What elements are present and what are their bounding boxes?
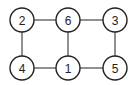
node-5: 5 [103,56,127,80]
node-4: 4 [10,56,34,80]
node-label: 4 [19,62,26,76]
node-label: 1 [65,62,72,76]
graph-diagram: 263415 [0,0,137,85]
node-label: 3 [112,14,119,28]
node-2: 2 [10,8,34,32]
node-1: 1 [56,56,80,80]
node-label: 6 [65,14,72,28]
node-3: 3 [103,8,127,32]
node-6: 6 [56,8,80,32]
node-label: 2 [19,14,26,28]
node-label: 5 [112,62,119,76]
